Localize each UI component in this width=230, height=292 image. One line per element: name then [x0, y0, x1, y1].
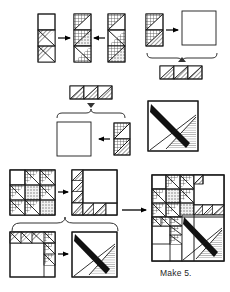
- make-count-caption: Make 5.: [160, 268, 192, 278]
- step5-stair-step-quadrant: [10, 232, 55, 277]
- step6-finished-quilt-block: [152, 175, 224, 261]
- step4-l-shaped-quadrant: [72, 170, 117, 215]
- step3-two-patch-column: [114, 123, 130, 155]
- step1-center-column-strip: [74, 14, 91, 62]
- step2-two-patch-column: [146, 14, 163, 46]
- step1-left-column-strip: [38, 14, 55, 62]
- step2-three-unit-row: [160, 66, 202, 79]
- step5-brace-up: [12, 217, 118, 231]
- step3-large-plain-square: [57, 122, 91, 156]
- diagram-canvas: Make 5.: [0, 0, 230, 292]
- step3-brace-down: [57, 109, 125, 118]
- step5-dark-bar-corner-block: [72, 232, 117, 277]
- step3-dark-bar-corner-block: [148, 101, 198, 151]
- step4-pieced-triangle-grid: [10, 170, 55, 215]
- step1-right-column-strip: [108, 14, 125, 62]
- step2-large-plain-square: [182, 11, 216, 45]
- quilt-assembly-illustration: [0, 0, 230, 292]
- step3-three-unit-row: [70, 86, 112, 99]
